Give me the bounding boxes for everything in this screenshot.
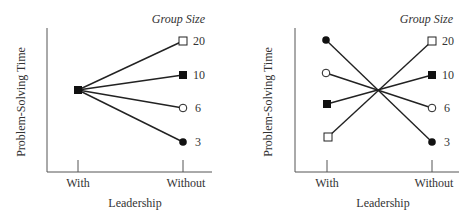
left-marker-with-combined [74,86,82,94]
right-y-axis-label: Problem-Solving Time [261,47,275,157]
left-y-axis-label: Problem-Solving Time [14,47,28,157]
left-legend-title: Group Size [152,12,206,26]
filled-square-marker-icon [323,100,331,108]
left-tick-label-without: Without [167,176,207,190]
filled-circle-marker-icon [428,138,436,146]
right-series-label-6: 6 [444,101,450,115]
right-chart: 20 10 6 3 Group Size With Without Leader… [261,12,459,210]
right-series-label-3: 3 [444,135,450,149]
filled-square-marker-icon [179,71,187,79]
left-line-6 [78,90,183,108]
right-tick-label-with: With [315,176,339,190]
left-series-label-10: 10 [193,68,205,82]
right-x-axis-label: Leadership [356,196,409,210]
left-series-label-20: 20 [193,34,205,48]
left-x-axis-label: Leadership [108,196,161,210]
right-legend-title: Group Size [400,12,454,26]
left-series-label-6: 6 [195,101,201,115]
right-line-10 [327,75,432,104]
open-circle-marker-icon [322,69,330,77]
left-line-3 [78,90,183,142]
right-series-label-20: 20 [442,34,454,48]
left-tick-label-with: With [66,176,90,190]
right-tick-label-without: Without [415,176,455,190]
filled-square-marker-icon [428,71,436,79]
open-circle-marker-icon [179,104,187,112]
filled-circle-marker-icon [179,138,187,146]
open-square-marker-icon [324,133,332,141]
left-chart: 20 10 6 3 Group Size With Without Leader… [14,12,212,210]
filled-circle-marker-icon [322,36,330,44]
open-circle-marker-icon [428,104,436,112]
open-square-marker-icon [179,37,187,45]
interaction-charts: 20 10 6 3 Group Size With Without Leader… [0,0,472,221]
right-series-label-10: 10 [442,68,454,82]
left-series-label-3: 3 [195,135,201,149]
open-square-marker-icon [428,37,436,45]
